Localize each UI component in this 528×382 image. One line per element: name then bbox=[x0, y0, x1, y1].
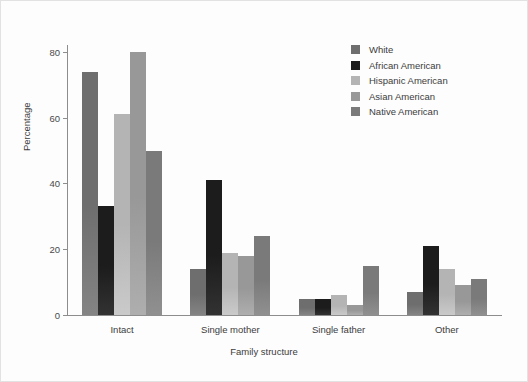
bar-slot bbox=[238, 41, 254, 315]
x-axis-title: Family structure bbox=[1, 346, 527, 357]
x-tick-label: Single father bbox=[299, 324, 379, 335]
bar-slot bbox=[114, 41, 130, 315]
legend-label: Asian American bbox=[369, 91, 435, 102]
bar[interactable] bbox=[146, 151, 162, 315]
bar[interactable] bbox=[315, 299, 331, 315]
x-tick-label: Intact bbox=[82, 324, 162, 335]
bar[interactable] bbox=[222, 253, 238, 315]
bar-slot bbox=[190, 41, 206, 315]
legend-label: Native American bbox=[369, 106, 438, 117]
legend-swatch bbox=[351, 61, 360, 70]
bar-slot bbox=[146, 41, 162, 315]
bar-group: Single mother bbox=[190, 41, 270, 315]
bar[interactable] bbox=[299, 299, 315, 315]
bar[interactable] bbox=[206, 180, 222, 315]
legend-swatch bbox=[351, 107, 360, 116]
x-axis-line bbox=[67, 315, 502, 316]
y-tick-mark bbox=[63, 118, 68, 119]
bar[interactable] bbox=[190, 269, 206, 315]
bar[interactable] bbox=[347, 305, 363, 315]
bar[interactable] bbox=[423, 246, 439, 315]
bar-slot bbox=[130, 41, 146, 315]
bar-slot bbox=[82, 41, 98, 315]
bar-slot bbox=[254, 41, 270, 315]
y-tick-mark bbox=[63, 315, 68, 316]
bar-slot bbox=[471, 41, 487, 315]
legend: WhiteAfrican AmericanHispanic AmericanAs… bbox=[351, 42, 448, 120]
legend-label: African American bbox=[369, 60, 441, 71]
bar[interactable] bbox=[439, 269, 455, 315]
bar[interactable] bbox=[238, 256, 254, 315]
bar[interactable] bbox=[407, 292, 423, 315]
y-tick-label: 60 bbox=[49, 112, 60, 123]
legend-item[interactable]: Hispanic American bbox=[351, 73, 448, 89]
y-axis-title: Percentage bbox=[21, 102, 32, 151]
bar-slot bbox=[331, 41, 347, 315]
y-tick-label: 40 bbox=[49, 178, 60, 189]
legend-swatch bbox=[351, 76, 360, 85]
bar-slot bbox=[299, 41, 315, 315]
legend-item[interactable]: Native American bbox=[351, 104, 448, 120]
bar-slot bbox=[98, 41, 114, 315]
x-tick-label: Single mother bbox=[190, 324, 270, 335]
bar[interactable] bbox=[331, 295, 347, 315]
y-tick-mark bbox=[63, 52, 68, 53]
bar-chart-figure: 020406080 IntactSingle motherSingle fath… bbox=[0, 0, 528, 382]
x-tick-label: Other bbox=[407, 324, 487, 335]
bar-slot bbox=[222, 41, 238, 315]
bar-slot bbox=[455, 41, 471, 315]
y-tick-label: 0 bbox=[55, 310, 60, 321]
legend-swatch bbox=[351, 45, 360, 54]
y-tick-mark bbox=[63, 249, 68, 250]
legend-label: White bbox=[369, 44, 393, 55]
bar[interactable] bbox=[82, 72, 98, 315]
bar[interactable] bbox=[363, 266, 379, 315]
bar[interactable] bbox=[455, 285, 471, 315]
bar-slot bbox=[206, 41, 222, 315]
legend-item[interactable]: White bbox=[351, 42, 448, 58]
bar-group: Intact bbox=[82, 41, 162, 315]
legend-label: Hispanic American bbox=[369, 75, 448, 86]
bar-slot bbox=[315, 41, 331, 315]
legend-item[interactable]: African American bbox=[351, 58, 448, 74]
bar[interactable] bbox=[471, 279, 487, 315]
bar[interactable] bbox=[254, 236, 270, 315]
y-tick-label: 20 bbox=[49, 244, 60, 255]
y-tick-mark bbox=[63, 183, 68, 184]
bar[interactable] bbox=[98, 206, 114, 315]
bar[interactable] bbox=[114, 114, 130, 315]
y-tick-label: 80 bbox=[49, 46, 60, 57]
bar[interactable] bbox=[130, 52, 146, 315]
legend-swatch bbox=[351, 92, 360, 101]
legend-item[interactable]: Asian American bbox=[351, 89, 448, 105]
